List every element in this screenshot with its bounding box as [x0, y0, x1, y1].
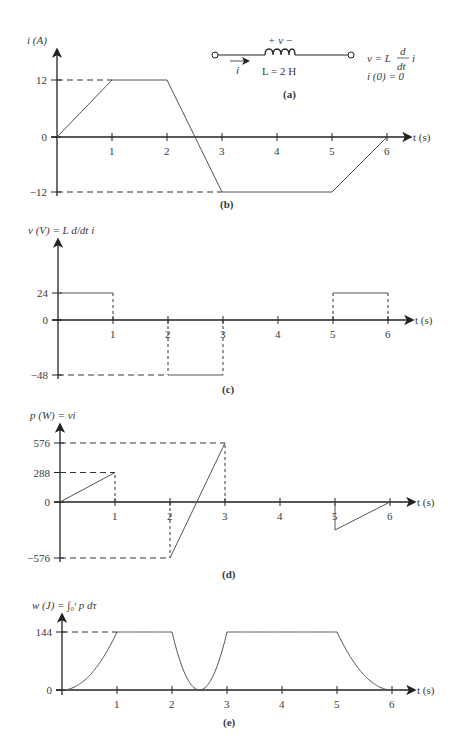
plot-d: 123456t (s)5762880−576p (W) = vi(d) [27, 409, 434, 581]
x-axis-label: t (s) [415, 314, 433, 327]
x-tick-label: 4 [275, 328, 281, 340]
y-tick-label: −576 [27, 552, 50, 564]
y-tick-label: 0 [47, 684, 53, 696]
equation-label: v = L [367, 52, 391, 64]
x-tick-label: 4 [274, 145, 280, 157]
current-label: i [236, 64, 239, 76]
inductor-coil-icon [265, 49, 295, 55]
y-tick-label: 0 [45, 496, 51, 508]
y-tick-label: 0 [42, 131, 48, 143]
figure-canvas: + v − i L = 2 H v = L d dt i i (0) = 0 (… [0, 0, 467, 752]
y-tick-label: 144 [36, 626, 53, 638]
x-tick-label: 5 [329, 145, 335, 157]
x-tick-label: 5 [334, 698, 340, 710]
caption-d: (d) [222, 568, 236, 581]
x-tick-label: 6 [385, 328, 391, 340]
caption-e: (e) [223, 716, 236, 729]
plots-container: 123456t (s)120−12i (A)(b)123456t (s)240−… [27, 34, 435, 729]
y-tick-label: 0 [43, 314, 49, 326]
polarity-label: + v − [268, 34, 293, 46]
x-tick-label: 1 [112, 510, 118, 522]
circuit-diagram: + v − i L = 2 H v = L d dt i i (0) = 0 (… [212, 34, 415, 101]
caption-c: (c) [222, 383, 235, 396]
initial-condition: i (0) = 0 [367, 70, 405, 83]
power-segment [335, 502, 390, 530]
x-tick-label: 5 [330, 328, 336, 340]
x-tick-label: 3 [219, 145, 225, 157]
x-tick-label: 6 [389, 698, 395, 710]
terminal-right [348, 52, 354, 58]
x-axis-label: t (s) [417, 496, 435, 509]
terminal-left [212, 52, 218, 58]
energy-curve [62, 632, 392, 690]
caption-b: (b) [220, 198, 234, 211]
plot-c: 123456t (s)240−48v (V) = L d/dt i(c) [28, 224, 433, 396]
x-tick-label: 3 [224, 698, 230, 710]
inductance-label: L = 2 H [262, 65, 296, 77]
plot-e: 123456t (s)1440w (J) = ∫₀ᵗ p dτ(e) [32, 599, 435, 729]
equation-tail: i [412, 52, 415, 64]
x-axis-label: t (s) [413, 131, 431, 144]
y-tick-label: 288 [34, 467, 51, 479]
equation-numerator: d [400, 45, 406, 57]
y-tick-label: 24 [37, 287, 49, 299]
y-tick-label: 12 [36, 74, 47, 86]
x-tick-label: 1 [114, 698, 120, 710]
y-axis-label: w (J) = ∫₀ᵗ p dτ [32, 599, 97, 612]
x-tick-label: 3 [222, 510, 228, 522]
x-tick-label: 6 [384, 145, 390, 157]
y-axis-label: p (W) = vi [29, 409, 76, 422]
x-tick-label: 4 [279, 698, 285, 710]
x-tick-label: 2 [169, 698, 175, 710]
caption-a: (a) [283, 88, 296, 101]
x-axis-label: t (s) [417, 684, 435, 697]
y-tick-label: −48 [31, 369, 49, 381]
y-tick-label: −12 [30, 186, 47, 198]
power-segment [170, 443, 225, 558]
x-tick-label: 6 [387, 510, 393, 522]
x-tick-label: 1 [109, 145, 115, 157]
y-tick-label: 576 [34, 437, 51, 449]
x-tick-label: 4 [277, 510, 283, 522]
x-tick-label: 1 [110, 328, 116, 340]
x-tick-label: 2 [164, 145, 170, 157]
y-axis-label: i (A) [27, 34, 47, 47]
power-segment [60, 473, 115, 503]
y-axis-label: v (V) = L d/dt i [28, 224, 94, 237]
